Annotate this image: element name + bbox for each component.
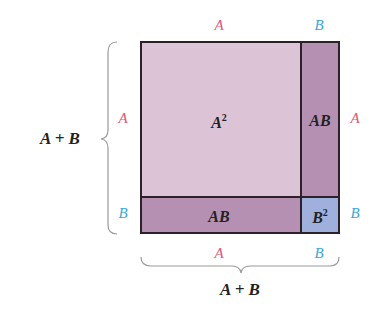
right-label-a: A [350, 111, 359, 126]
bottom-label-a: A [214, 246, 223, 261]
a-squared-exponent: 2 [222, 112, 227, 123]
bottom-label-b: B [314, 246, 323, 261]
top-label-b: B [314, 18, 323, 33]
b-squared-exponent: 2 [323, 207, 328, 218]
ab-bottom-label: AB [208, 209, 229, 224]
top-label-a: A [214, 18, 223, 33]
bottom-sum-label: A + B [220, 282, 260, 297]
bottom-brace [141, 257, 339, 273]
b-squared-label: B2 [312, 205, 328, 225]
a-squared-base: A [211, 114, 222, 131]
left-label-a: A [118, 111, 127, 126]
a-squared-label: A2 [211, 110, 227, 130]
right-label-b: B [350, 206, 359, 221]
left-brace [101, 42, 117, 234]
left-sum-label: A + B [40, 131, 80, 146]
left-label-b: B [118, 206, 127, 221]
b-squared-base: B [312, 209, 323, 226]
ab-right-label: AB [309, 113, 330, 128]
